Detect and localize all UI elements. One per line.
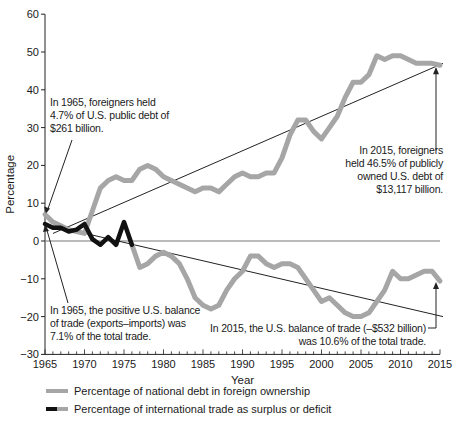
y-tick-label: 50 — [27, 46, 39, 58]
y-tick-label: 10 — [27, 197, 39, 209]
y-tick-label: −10 — [20, 273, 39, 285]
y-tick-label: −20 — [20, 311, 39, 323]
pointer-2015-trade — [428, 284, 436, 328]
x-tick-label: 2010 — [388, 358, 412, 370]
x-tick-label: 1970 — [72, 358, 96, 370]
y-axis-title: Percentage — [4, 155, 16, 214]
y-tick-label: 0 — [33, 235, 39, 247]
y-tick-label: 60 — [27, 8, 39, 20]
chart-canvas: 6050403020100−10−20−30196519701975198019… — [0, 0, 463, 435]
arrow-head-icon — [433, 282, 439, 289]
annotation-2015-debt: In 2015, foreigners held 46.5% of public… — [345, 144, 443, 196]
x-tick-label: 2005 — [349, 358, 373, 370]
y-tick-label: 40 — [27, 84, 39, 96]
legend-swatch-black-gray — [46, 407, 68, 411]
x-tick-label: 1975 — [112, 358, 136, 370]
y-tick-label: 30 — [27, 122, 39, 134]
annotation-2015-trade: In 2015, the U.S. balance of trade (–$53… — [210, 322, 426, 348]
legend: Percentage of national debt in foreign o… — [46, 382, 331, 418]
x-tick-label: 2000 — [309, 358, 333, 370]
legend-item-debt: Percentage of national debt in foreign o… — [46, 382, 331, 400]
x-tick-label: 1995 — [270, 358, 294, 370]
legend-item-trade: Percentage of international trade as sur… — [46, 400, 331, 418]
arrow-head-icon — [433, 67, 439, 74]
x-tick-label: 1990 — [230, 358, 254, 370]
y-tick-label: 20 — [27, 159, 39, 171]
annotation-1965-debt: In 1965, foreigners held 4.7% of U.S. pu… — [50, 96, 169, 135]
x-tick-label: 1985 — [191, 358, 215, 370]
pointer-1965-trade — [46, 227, 68, 303]
x-tick-label: 2015 — [428, 358, 452, 370]
annotation-1965-trade: In 1965, the positive U.S. balance of tr… — [50, 304, 200, 343]
x-tick-label: 1980 — [151, 358, 175, 370]
x-tick-label: 1965 — [33, 358, 57, 370]
legend-swatch-gray — [46, 389, 68, 393]
pointer-1965-debt — [47, 140, 72, 212]
